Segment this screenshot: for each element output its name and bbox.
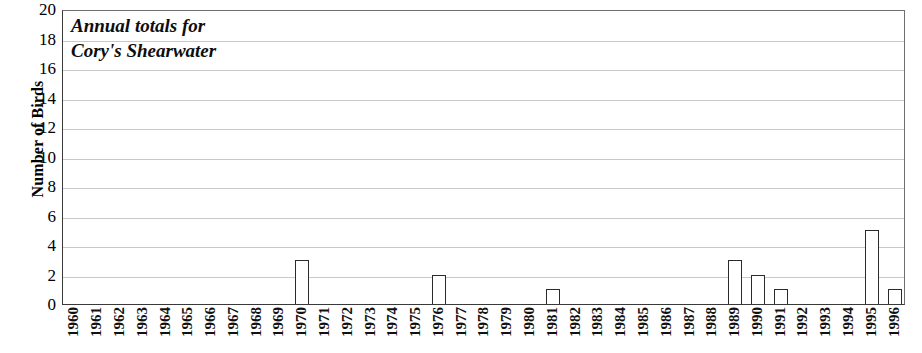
plot-area: Annual totals for Cory's Shearwater <box>62 10 905 305</box>
x-axis-tick-label: 1996 <box>882 305 905 353</box>
x-axis-tick-label: 1995 <box>859 305 882 353</box>
x-axis-tick-label: 1979 <box>495 305 518 353</box>
y-axis-tick-label: 18 <box>0 31 56 48</box>
x-axis-tick-label-text: 1969 <box>271 307 286 337</box>
y-axis-tick-label: 8 <box>0 178 56 195</box>
x-axis-tick-label-text: 1996 <box>886 307 901 337</box>
bar-slot <box>382 10 405 304</box>
y-axis-tick-label: 4 <box>0 237 56 254</box>
x-axis-tick-label: 1966 <box>199 305 222 353</box>
bar-slot <box>245 10 268 304</box>
x-axis-tick-label: 1967 <box>221 305 244 353</box>
bar <box>432 275 446 305</box>
bar-slot <box>541 10 564 304</box>
x-axis-tick-label: 1988 <box>700 305 723 353</box>
chart-title-line-2: Cory's Shearwater <box>71 38 216 63</box>
x-axis-tick-label-text: 1982 <box>567 307 582 337</box>
x-axis-tick-label: 1960 <box>62 305 85 353</box>
x-axis-tick-label-text: 1970 <box>294 307 309 337</box>
x-axis-tick-label-text: 1983 <box>590 307 605 337</box>
bar <box>774 289 788 304</box>
x-axis-tick-label-text: 1971 <box>317 307 332 337</box>
bar-slot <box>838 10 861 304</box>
bar-slot <box>747 10 770 304</box>
x-axis-tick-label: 1985 <box>632 305 655 353</box>
x-axis-tick-label-text: 1986 <box>658 307 673 337</box>
bar-slot <box>496 10 519 304</box>
bar-slot <box>314 10 337 304</box>
x-axis-tick-label: 1982 <box>563 305 586 353</box>
bar <box>888 289 902 304</box>
x-axis-tick-label-text: 1965 <box>180 307 195 337</box>
x-axis-tick-label-text: 1974 <box>385 307 400 337</box>
x-axis-tick-label: 1969 <box>267 305 290 353</box>
x-axis-tick-label-text: 1989 <box>727 307 742 337</box>
bar-slot <box>564 10 587 304</box>
x-axis-tick-label: 1977 <box>449 305 472 353</box>
x-axis-tick-label-text: 1978 <box>476 307 491 337</box>
x-axis-tick-label: 1980 <box>518 305 541 353</box>
bar-slot <box>792 10 815 304</box>
x-axis-tick-label: 1990 <box>746 305 769 353</box>
y-axis-tick-label: 2 <box>0 267 56 284</box>
x-axis-tick-label-text: 1976 <box>430 307 445 337</box>
x-axis-tick-label-text: 1994 <box>841 307 856 337</box>
bar-slot <box>359 10 382 304</box>
x-axis-tick-label: 1989 <box>723 305 746 353</box>
x-axis-tick-label: 1986 <box>654 305 677 353</box>
x-axis-tick-label: 1973 <box>358 305 381 353</box>
y-axis-tick-label: 20 <box>0 1 56 18</box>
x-axis-tick-label-text: 1972 <box>339 307 354 337</box>
bar-slot <box>655 10 678 304</box>
y-axis-tick-label: 10 <box>0 149 56 166</box>
x-axis-tick-label: 1970 <box>290 305 313 353</box>
bar-slot <box>883 10 905 304</box>
x-axis-tick-label: 1978 <box>472 305 495 353</box>
x-axis-tick-label: 1991 <box>768 305 791 353</box>
x-axis-tick-label-text: 1966 <box>203 307 218 337</box>
bar <box>546 289 560 304</box>
x-axis-tick-label: 1961 <box>85 305 108 353</box>
bar-slot <box>222 10 245 304</box>
bar-slot <box>450 10 473 304</box>
x-axis-tick-label-text: 1993 <box>818 307 833 337</box>
bar-slot <box>678 10 701 304</box>
y-axis-tick-label: 0 <box>0 296 56 313</box>
x-axis-tick-label: 1968 <box>244 305 267 353</box>
y-axis-tick-label: 12 <box>0 119 56 136</box>
x-axis-tick-label-text: 1995 <box>863 307 878 337</box>
x-axis-tick-label-text: 1975 <box>408 307 423 337</box>
x-axis-tick-label: 1976 <box>427 305 450 353</box>
x-axis-tick-label-text: 1990 <box>749 307 764 337</box>
x-axis-tick-label-text: 1960 <box>66 307 81 337</box>
bar-slot <box>701 10 724 304</box>
chart-title-line-1: Annual totals for <box>71 13 216 38</box>
y-axis-tick-label: 6 <box>0 208 56 225</box>
x-axis-tick-label: 1964 <box>153 305 176 353</box>
bar <box>865 230 879 304</box>
x-axis-tick-label: 1972 <box>335 305 358 353</box>
bar-chart-figure: Number of Birds 20181614121086420 Annual… <box>0 0 922 353</box>
x-axis-tick-label-text: 1963 <box>134 307 149 337</box>
bar <box>751 275 765 305</box>
x-axis-tick-label-text: 1967 <box>225 307 240 337</box>
bar-slot <box>587 10 610 304</box>
bar <box>728 260 742 304</box>
x-axis-tick-label: 1987 <box>677 305 700 353</box>
bar-slot <box>428 10 451 304</box>
bar-slot <box>291 10 314 304</box>
x-axis-tick-label: 1993 <box>814 305 837 353</box>
bar-slot <box>633 10 656 304</box>
x-axis-tick-label-text: 1962 <box>111 307 126 337</box>
x-axis-tick-label-text: 1985 <box>635 307 650 337</box>
x-axis-tick-label-text: 1961 <box>89 307 104 337</box>
bar-slot <box>473 10 496 304</box>
x-axis-tick-label-text: 1987 <box>681 307 696 337</box>
x-axis-tick-label-text: 1991 <box>772 307 787 337</box>
chart-title: Annual totals for Cory's Shearwater <box>71 13 216 63</box>
x-axis-tick-label-text: 1968 <box>248 307 263 337</box>
x-axis-tick-label-text: 1979 <box>499 307 514 337</box>
x-axis-tick-label: 1981 <box>540 305 563 353</box>
x-axis-tick-label: 1974 <box>381 305 404 353</box>
y-axis-tick-label: 16 <box>0 60 56 77</box>
